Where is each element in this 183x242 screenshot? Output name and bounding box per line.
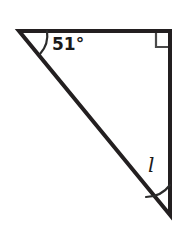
triangle-outline bbox=[19, 31, 170, 215]
right-angle-marker-icon bbox=[156, 33, 168, 47]
angle-label-top-left: 51° bbox=[52, 36, 84, 53]
triangle-diagram bbox=[0, 0, 183, 242]
geometry-figure: 51° l bbox=[0, 0, 183, 242]
angle-arc-top-left-icon bbox=[40, 31, 47, 54]
angle-label-bottom-right: l bbox=[148, 155, 154, 175]
